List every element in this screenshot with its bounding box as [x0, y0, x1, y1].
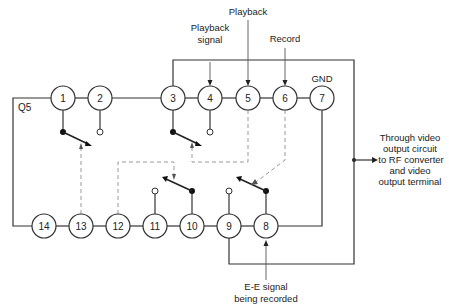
svg-text:13: 13 — [75, 221, 87, 232]
ee-signal-label-1: E-E signal — [244, 281, 287, 292]
pin-13: 13 — [69, 214, 93, 238]
arrow-down-icon — [283, 80, 288, 86]
switch-ic-diagram: 1 2 3 4 5 6 7 14 13 12 11 10 9 8 Q5 Play… — [0, 0, 449, 308]
output-label-2: output circuit — [383, 143, 437, 154]
svg-text:8: 8 — [263, 221, 269, 232]
playback-label: Playback — [229, 6, 268, 17]
pin-12: 12 — [106, 214, 130, 238]
arrow-down-icon — [208, 80, 213, 86]
record-label: Record — [270, 33, 301, 44]
output-label-3: to RF converter — [378, 154, 443, 165]
svg-text:6: 6 — [282, 93, 288, 104]
svg-text:7: 7 — [319, 93, 325, 104]
pin-11: 11 — [143, 214, 167, 238]
svg-text:1: 1 — [60, 93, 66, 104]
switch-11-10 — [152, 176, 195, 214]
arrow-up-icon — [264, 240, 269, 246]
pin-7: 7 — [310, 86, 334, 110]
pin-3: 3 — [161, 86, 185, 110]
svg-text:12: 12 — [112, 221, 124, 232]
svg-text:14: 14 — [38, 221, 50, 232]
pin-10: 10 — [180, 214, 204, 238]
switch-3-4 — [170, 110, 213, 146]
svg-text:4: 4 — [207, 93, 213, 104]
pin-2: 2 — [88, 86, 112, 110]
svg-text:2: 2 — [97, 93, 103, 104]
svg-text:11: 11 — [150, 221, 161, 232]
control-lines — [79, 110, 285, 214]
pin-1: 1 — [51, 86, 75, 110]
svg-text:3: 3 — [170, 93, 176, 104]
chip-label: Q5 — [18, 102, 32, 113]
pin-14: 14 — [32, 214, 56, 238]
gnd-label: GND — [311, 73, 332, 84]
pin-5: 5 — [236, 86, 260, 110]
pin-9: 9 — [217, 214, 241, 238]
output-label-5: output terminal — [379, 176, 442, 187]
svg-text:5: 5 — [245, 93, 251, 104]
pin-8: 8 — [254, 214, 278, 238]
svg-text:9: 9 — [226, 221, 232, 232]
output-arrow-icon — [372, 157, 378, 163]
playback-signal-label-2: signal — [198, 34, 223, 45]
playback-signal-label-1: Playback — [191, 22, 230, 33]
arrow-down-icon — [246, 80, 251, 86]
output-label-4: and video — [389, 165, 430, 176]
switch-1-2 — [60, 110, 103, 146]
svg-text:10: 10 — [186, 221, 198, 232]
ee-signal-label-2: being recorded — [234, 293, 297, 304]
bottom-pins: 14 13 12 11 10 9 8 — [32, 214, 278, 238]
output-label-1: Through video — [380, 132, 441, 143]
pin-6: 6 — [273, 86, 297, 110]
input-arrows — [208, 20, 288, 280]
switch-9-8 — [226, 176, 269, 214]
pin-4: 4 — [198, 86, 222, 110]
